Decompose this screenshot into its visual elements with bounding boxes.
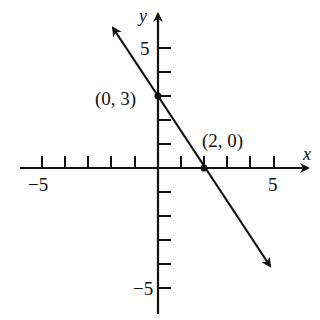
y-tick-label-neg5: −5: [133, 278, 153, 299]
x-axis-label: x: [302, 144, 311, 164]
coordinate-plane: y x 5 −5 −5 5 (0, 3) (2, 0): [0, 0, 320, 320]
x-tick-label-neg5: −5: [28, 174, 48, 195]
point-0-3: [155, 93, 162, 100]
point-label-0-3: (0, 3): [95, 88, 136, 110]
y-axis-label: y: [137, 6, 147, 26]
x-tick-label-5: 5: [268, 174, 278, 195]
point-2-0: [201, 165, 208, 172]
point-label-2-0: (2, 0): [202, 130, 243, 152]
plotted-line-lower: [158, 96, 270, 266]
plotted-line: [113, 28, 158, 96]
y-tick-label-5: 5: [140, 38, 150, 59]
